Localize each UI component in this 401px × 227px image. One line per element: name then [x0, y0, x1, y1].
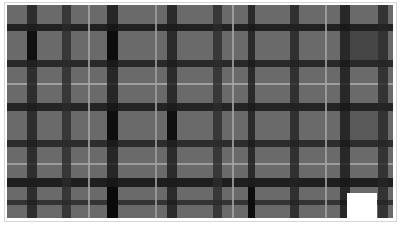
vertical-stripe	[340, 5, 350, 218]
vertical-stripe	[325, 5, 327, 218]
vertical-stripe	[232, 5, 234, 218]
dark-check-block	[27, 31, 37, 60]
dark-check-block	[107, 31, 118, 60]
dark-check-block	[167, 111, 177, 140]
solid-square	[350, 111, 378, 140]
dark-check-block	[107, 111, 118, 140]
vertical-stripe	[290, 5, 299, 218]
solid-square	[347, 193, 377, 218]
vertical-stripe	[213, 5, 222, 218]
vertical-stripe	[378, 5, 388, 218]
vertical-stripe	[155, 5, 157, 218]
dark-check-block	[248, 187, 255, 218]
tartan-fabric	[7, 5, 393, 218]
dark-check-block	[107, 187, 118, 218]
vertical-stripe	[62, 5, 71, 218]
vertical-stripe	[88, 5, 90, 218]
solid-square	[350, 31, 378, 60]
